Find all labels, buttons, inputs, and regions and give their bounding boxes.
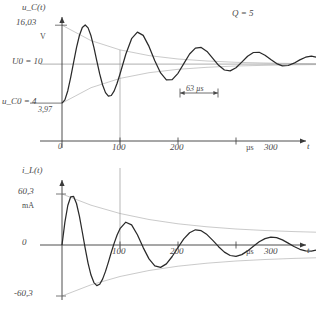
oscillation-figure bbox=[0, 0, 322, 317]
uc-x-origin-label: 0 bbox=[58, 143, 62, 151]
il-y-unit: mA bbox=[22, 202, 34, 210]
period-annotation: 63 µs bbox=[186, 85, 204, 93]
uc-xtick-label-200: 200 bbox=[170, 143, 184, 152]
uc-peak-label: 16,03 bbox=[16, 18, 36, 27]
uc-xtick-label-100: 100 bbox=[112, 143, 126, 152]
il-y-axis-label: i_L(t) bbox=[22, 166, 43, 175]
figure-root: u_C(t) 16,03 V U0 = 10 u_C0 = 4 3,97 0 1… bbox=[0, 0, 322, 317]
uc-start-label: u_C0 = 4 bbox=[2, 97, 37, 106]
panel-uc bbox=[30, 17, 316, 148]
uc-y-unit: V bbox=[40, 33, 46, 41]
il-curve bbox=[62, 196, 316, 285]
uc-y-axis-label: u_C(t) bbox=[22, 3, 46, 12]
il-min-label: -60,3 bbox=[14, 289, 33, 298]
il-upper-envelope bbox=[62, 194, 316, 232]
il-x-axis-label: t bbox=[307, 246, 310, 255]
il-xtick-label-300: 300 bbox=[264, 247, 278, 256]
uc-x-axis-label: t bbox=[307, 142, 310, 151]
panel-il bbox=[40, 168, 316, 300]
il-zero-label: 0 bbox=[22, 238, 27, 247]
uc-upper-envelope bbox=[62, 25, 316, 64]
il-peak-label: 60,3 bbox=[18, 187, 34, 196]
uc-x-unit: µs bbox=[246, 144, 254, 152]
uc-start-value-label: 3,97 bbox=[38, 106, 52, 114]
uc-xtick-label-300: 300 bbox=[264, 143, 278, 152]
il-xtick-label-200: 200 bbox=[170, 247, 184, 256]
il-xtick-label-100: 100 bbox=[112, 247, 126, 256]
il-x-unit: µs bbox=[246, 248, 254, 256]
uc-steady-label: U0 = 10 bbox=[12, 57, 43, 66]
il-lower-envelope bbox=[62, 258, 316, 296]
q-factor-annotation: Q = 5 bbox=[232, 9, 254, 18]
